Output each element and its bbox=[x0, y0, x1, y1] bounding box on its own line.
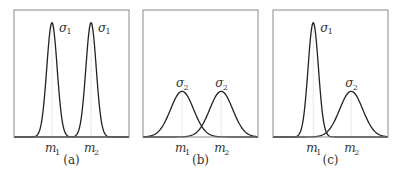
mean-tick-subscript: 1 bbox=[55, 148, 60, 157]
sigma-label-subscript: 2 bbox=[353, 83, 358, 92]
sigma-label-subscript: 1 bbox=[66, 27, 71, 36]
sigma-label-subscript: 1 bbox=[328, 27, 333, 36]
mean-tick-subscript: 2 bbox=[94, 148, 99, 157]
gaussian-curve bbox=[143, 91, 258, 137]
gaussian-curve bbox=[273, 91, 388, 137]
panel-c: σ1σ2m1m2(c) bbox=[273, 10, 388, 167]
plot-frame bbox=[143, 10, 258, 137]
sigma-label-subscript: 1 bbox=[106, 27, 111, 36]
gaussian-curve bbox=[273, 23, 388, 137]
sigma-label-subscript: 2 bbox=[223, 83, 228, 92]
gaussian-curve bbox=[14, 23, 129, 137]
panel-caption: (a) bbox=[63, 153, 80, 167]
panel-a: σ1σ1m1m2(a) bbox=[14, 10, 129, 167]
mean-tick-subscript: 2 bbox=[224, 148, 229, 157]
panel-caption: (b) bbox=[192, 153, 209, 167]
sigma-label-subscript: 2 bbox=[184, 83, 189, 92]
mean-tick-subscript: 1 bbox=[185, 148, 190, 157]
gaussian-curve bbox=[14, 23, 129, 137]
panel-caption: (c) bbox=[322, 153, 338, 167]
panel-b: σ2σ2m1m2(b) bbox=[143, 10, 258, 167]
gaussian-figure: σ1σ1m1m2(a)σ2σ2m1m2(b)σ1σ2m1m2(c) bbox=[0, 0, 400, 182]
mean-tick-subscript: 1 bbox=[316, 148, 321, 157]
mean-tick-subscript: 2 bbox=[354, 148, 359, 157]
